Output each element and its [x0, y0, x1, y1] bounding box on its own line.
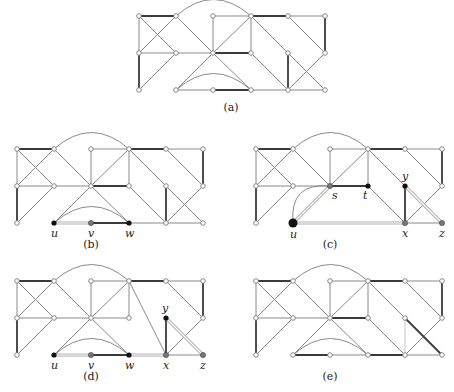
vertex — [164, 221, 169, 226]
vertex — [323, 88, 328, 93]
vertex — [89, 184, 94, 189]
edge — [17, 186, 54, 223]
vertex — [89, 147, 94, 152]
vertex-label: u — [290, 228, 297, 241]
edge-inner — [293, 186, 330, 223]
panel-caption: (d) — [83, 370, 99, 383]
vertex — [328, 279, 333, 284]
vertex — [366, 353, 371, 358]
edge — [256, 318, 293, 355]
vertex — [211, 88, 216, 93]
vertex-label: w — [125, 359, 135, 372]
edge — [330, 318, 368, 355]
edge — [330, 149, 368, 186]
vertex — [249, 51, 254, 56]
panel-caption: (c) — [323, 238, 338, 251]
edge — [405, 149, 442, 186]
vertex-highlight — [327, 183, 332, 188]
vertex — [164, 279, 169, 284]
vertex — [291, 147, 296, 152]
vertex — [201, 221, 206, 226]
vertex-label: z — [438, 227, 445, 240]
vertex — [403, 279, 408, 284]
edge — [129, 149, 166, 186]
vertex — [328, 147, 333, 152]
edge — [368, 281, 405, 318]
vertex — [328, 353, 333, 358]
edge — [129, 281, 166, 355]
vertex — [15, 316, 20, 321]
panel-caption: (e) — [322, 370, 337, 383]
vertex-label: s — [332, 189, 338, 202]
vertex — [403, 316, 408, 321]
panel-d: uvwxzy(d) — [15, 265, 206, 384]
vertex — [15, 353, 20, 358]
vertex — [286, 14, 291, 19]
vertex — [137, 88, 142, 93]
vertex-highlight — [126, 220, 131, 225]
edge — [54, 186, 91, 223]
panel-caption: (a) — [223, 101, 238, 114]
vertex-highlight — [51, 352, 56, 357]
edge — [330, 281, 368, 318]
vertex — [291, 184, 296, 189]
vertex — [328, 316, 333, 321]
edge — [405, 281, 442, 318]
vertex — [440, 279, 445, 284]
vertex — [174, 51, 179, 56]
vertex — [403, 353, 408, 358]
vertex — [286, 51, 291, 56]
vertex — [440, 316, 445, 321]
vertex — [254, 184, 259, 189]
vertex-highlight — [200, 352, 205, 357]
vertex-highlight — [439, 220, 444, 225]
vertex — [127, 316, 132, 321]
vertex-label: y — [161, 302, 169, 315]
vertex-highlight — [51, 220, 56, 225]
vertex — [201, 184, 206, 189]
vertex — [254, 316, 259, 321]
vertex — [291, 279, 296, 284]
vertex — [211, 14, 216, 19]
edge — [91, 186, 129, 223]
vertex — [323, 14, 328, 19]
vertex — [254, 221, 259, 226]
graph-figure: (a)uvw(b)styuxz(c)uvwxzy(d)(e) — [0, 0, 454, 392]
vertex — [211, 51, 216, 56]
edge — [54, 149, 91, 186]
vertex — [440, 184, 445, 189]
vertex — [254, 147, 259, 152]
vertex-label: u — [51, 227, 58, 240]
vertex-label: z — [199, 359, 206, 372]
vertex — [249, 88, 254, 93]
vertex — [366, 147, 371, 152]
edge — [176, 16, 213, 53]
vertex — [137, 51, 142, 56]
vertex — [201, 316, 206, 321]
vertex-highlight — [126, 352, 131, 357]
vertex — [249, 14, 254, 19]
vertex-highlight — [402, 183, 407, 188]
vertex — [254, 353, 259, 358]
vertex — [89, 279, 94, 284]
vertex-highlight — [402, 220, 407, 225]
edge — [139, 53, 176, 90]
edge — [129, 186, 166, 223]
vertex — [174, 88, 179, 93]
vertex — [127, 279, 132, 284]
vertex — [323, 51, 328, 56]
vertex-label: u — [51, 359, 58, 372]
edge — [251, 53, 288, 90]
vertex-label: w — [125, 227, 135, 240]
edge — [293, 281, 330, 318]
vertex — [15, 147, 20, 152]
edge — [256, 186, 293, 223]
edge — [293, 149, 330, 186]
edge — [54, 318, 91, 355]
vertex-label: y — [401, 170, 409, 183]
vertex — [440, 353, 445, 358]
vertex — [254, 279, 259, 284]
vertex — [127, 147, 132, 152]
vertex — [291, 353, 296, 358]
vertex-label: x — [402, 227, 409, 240]
